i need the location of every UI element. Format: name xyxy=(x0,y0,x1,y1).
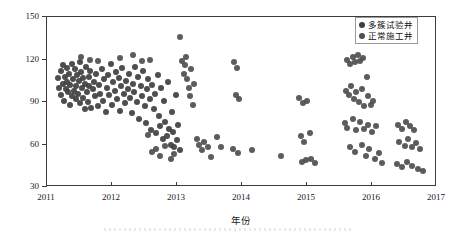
data-point xyxy=(139,58,145,64)
data-point xyxy=(379,160,385,166)
data-point xyxy=(90,86,96,92)
data-point xyxy=(301,139,307,145)
data-point xyxy=(87,57,93,63)
data-point xyxy=(135,74,141,80)
data-point xyxy=(126,71,132,77)
data-point xyxy=(399,164,405,170)
data-point xyxy=(155,72,161,78)
x-tick-label: 2014 xyxy=(232,192,250,202)
data-point xyxy=(147,96,153,102)
data-point xyxy=(235,150,241,156)
data-point xyxy=(88,105,94,111)
data-point xyxy=(165,79,171,85)
data-point xyxy=(144,86,150,92)
data-point xyxy=(186,85,192,91)
data-point xyxy=(158,85,164,91)
data-point xyxy=(142,103,148,109)
data-point xyxy=(353,127,359,133)
data-point xyxy=(117,55,123,61)
data-point xyxy=(136,116,142,122)
x-tick-mark xyxy=(111,182,112,186)
data-point xyxy=(105,72,111,78)
data-point xyxy=(106,92,112,98)
y-tick-label: 120 xyxy=(26,54,40,64)
data-point xyxy=(157,153,163,159)
data-point xyxy=(359,142,365,148)
data-point xyxy=(373,123,379,129)
data-point xyxy=(218,144,224,150)
data-point xyxy=(78,54,84,60)
data-point xyxy=(162,119,168,125)
data-point xyxy=(370,98,376,104)
data-point xyxy=(236,96,242,102)
x-tick-label: 2016 xyxy=(362,192,380,202)
data-point xyxy=(304,98,310,104)
x-tick-mark xyxy=(371,182,372,186)
data-point xyxy=(103,109,109,115)
data-point xyxy=(112,88,118,94)
data-point xyxy=(130,81,136,87)
data-point xyxy=(156,113,162,119)
data-point xyxy=(147,57,153,63)
data-point xyxy=(87,68,93,74)
data-point xyxy=(376,150,382,156)
data-point xyxy=(417,146,423,152)
data-point xyxy=(99,66,105,72)
y-tick-label: 30 xyxy=(30,181,39,191)
data-point xyxy=(114,96,120,102)
data-point xyxy=(199,147,205,153)
data-point xyxy=(145,132,151,138)
legend-marker-icon xyxy=(359,33,365,39)
data-point xyxy=(405,136,411,142)
data-point xyxy=(125,86,131,92)
y-tick-label: 90 xyxy=(30,96,39,106)
data-point xyxy=(372,156,378,162)
data-point xyxy=(82,106,88,112)
y-tick-mark xyxy=(42,186,47,187)
data-point xyxy=(177,34,183,40)
legend-item-0: 多簇试验井 xyxy=(359,20,413,31)
data-point xyxy=(153,146,159,152)
legend-label: 正常施工井 xyxy=(368,31,413,42)
data-point xyxy=(127,95,133,101)
data-point xyxy=(307,130,313,136)
data-point xyxy=(104,85,110,91)
data-point xyxy=(157,123,163,129)
data-point xyxy=(364,74,370,80)
x-axis-label: 年份 xyxy=(231,213,251,227)
x-tick-mark xyxy=(241,182,242,186)
x-tick-mark xyxy=(306,182,307,186)
data-point xyxy=(191,81,197,87)
data-point xyxy=(169,109,175,115)
data-point xyxy=(131,89,137,95)
data-point xyxy=(357,119,363,125)
data-point xyxy=(420,168,426,174)
legend-item-1: 正常施工井 xyxy=(359,31,413,42)
data-point xyxy=(174,137,180,143)
data-point xyxy=(153,130,159,136)
data-point xyxy=(132,64,138,70)
data-point xyxy=(399,126,405,132)
data-point xyxy=(361,103,367,109)
data-point xyxy=(363,153,369,159)
data-point xyxy=(97,91,103,97)
data-point xyxy=(164,133,170,139)
data-point xyxy=(110,79,116,85)
data-point xyxy=(140,68,146,74)
data-point xyxy=(411,127,417,133)
data-point xyxy=(187,93,193,99)
data-point xyxy=(86,74,92,80)
y-tick-label: 60 xyxy=(30,139,39,149)
data-point xyxy=(352,149,358,155)
legend-marker-icon xyxy=(359,22,365,28)
x-tick-mark xyxy=(176,182,177,186)
data-point xyxy=(152,91,158,97)
data-point xyxy=(183,54,189,60)
data-point xyxy=(123,78,129,84)
data-point xyxy=(93,71,99,77)
data-point xyxy=(96,82,102,88)
data-point xyxy=(117,108,123,114)
data-point xyxy=(116,75,122,81)
data-point xyxy=(134,99,140,105)
data-point xyxy=(170,129,176,135)
